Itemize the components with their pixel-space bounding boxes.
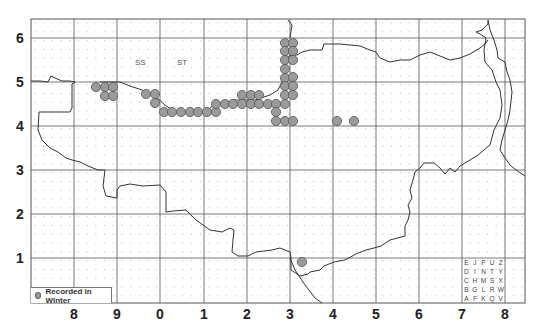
tetrad-dot-grid	[34, 22, 522, 296]
grid-square-label-st: ST	[177, 58, 187, 67]
tetrad-key-letter: J	[471, 259, 480, 266]
record-dot	[271, 116, 280, 125]
record-dot	[108, 82, 117, 91]
tetrad-key-letter: X	[496, 277, 505, 284]
x-axis-label: 1	[200, 306, 208, 322]
record-dot	[349, 116, 358, 125]
record-dot	[237, 90, 246, 99]
record-dot-icon	[35, 292, 41, 299]
record-dot	[176, 107, 185, 116]
x-axis-label: 7	[458, 306, 466, 322]
record-dot	[288, 81, 297, 90]
tetrad-key-letter: T	[488, 268, 497, 275]
x-axis-label: 8	[70, 306, 78, 322]
x-axis-label: 3	[286, 306, 294, 322]
legend: Recorded in Winter	[31, 287, 112, 303]
x-axis-label: 8	[501, 306, 509, 322]
tetrad-key-letter: A	[462, 295, 471, 302]
x-axis-label: 0	[156, 306, 164, 322]
record-dot	[237, 99, 246, 108]
record-dot	[332, 116, 341, 125]
record-dot	[297, 257, 306, 266]
record-dot	[280, 64, 289, 73]
x-axis-label: 9	[113, 306, 121, 322]
record-dot	[254, 90, 263, 99]
tetrad-key-letter: F	[471, 295, 480, 302]
tetrad-key-letter: L	[479, 286, 488, 293]
record-dot	[228, 99, 237, 108]
record-dot	[193, 107, 202, 116]
record-dot	[150, 98, 159, 107]
tetrad-key-letter: D	[462, 268, 471, 275]
tetrad-key-letter: Q	[488, 295, 497, 302]
record-dot	[288, 116, 297, 125]
tetrad-key-letter: K	[479, 295, 488, 302]
y-axis-label: 6	[16, 30, 24, 46]
tetrad-key-letter: Y	[496, 268, 505, 275]
y-axis-label: 5	[16, 74, 24, 90]
distribution-map	[0, 0, 541, 332]
y-axis-label: 1	[16, 250, 24, 266]
legend-label: Recorded in Winter	[45, 287, 111, 305]
tetrad-key-letter: I	[471, 268, 480, 275]
x-axis-label: 5	[372, 306, 380, 322]
x-axis-label: 4	[329, 306, 337, 322]
tetrad-key-letter: V	[496, 295, 505, 302]
record-dot	[288, 72, 297, 81]
tetrad-key-letter: B	[462, 286, 471, 293]
record-dot	[271, 107, 280, 116]
record-dot	[211, 99, 220, 108]
record-dot	[150, 89, 159, 98]
tetrad-key-letter: G	[471, 286, 480, 293]
tetrad-key-letter: Z	[496, 259, 505, 266]
record-dot	[254, 99, 263, 108]
y-axis-label: 3	[16, 162, 24, 178]
tetrad-key-letter: H	[471, 277, 480, 284]
x-axis-label: 2	[243, 306, 251, 322]
record-dot	[288, 90, 297, 99]
grid-square-label-ss: SS	[135, 58, 146, 67]
y-axis-label: 2	[16, 206, 24, 222]
x-axis-label: 6	[415, 306, 423, 322]
tetrad-key-letter: E	[462, 259, 471, 266]
record-dot	[288, 55, 297, 64]
record-dot	[141, 89, 150, 98]
tetrad-key: EJPUZDINTYCHMSXBGLRWAFKQV	[462, 258, 505, 303]
y-axis-label: 4	[16, 118, 24, 134]
record-dot	[288, 46, 297, 55]
tetrad-key-letter: N	[479, 268, 488, 275]
tetrad-key-letter: P	[479, 259, 488, 266]
record-dot	[202, 107, 211, 116]
tetrad-key-letter: C	[462, 277, 471, 284]
tetrad-key-letter: W	[496, 286, 505, 293]
tetrad-key-letter: U	[488, 259, 497, 266]
tetrad-key-letter: S	[488, 277, 497, 284]
tetrad-key-letter: R	[488, 286, 497, 293]
record-dot	[167, 107, 176, 116]
winter-records	[91, 38, 358, 266]
record-dot	[91, 82, 100, 91]
tetrad-key-letter: M	[479, 277, 488, 284]
record-dot	[108, 91, 117, 100]
record-dot	[280, 99, 289, 108]
